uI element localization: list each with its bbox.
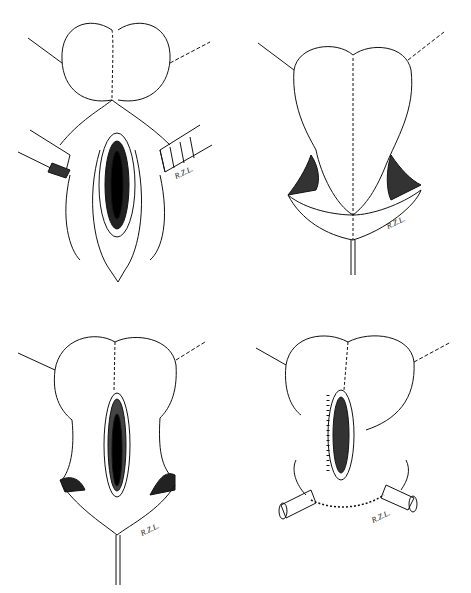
- illustration-sutured-closure: [236, 300, 471, 593]
- illustration-retracted-incision: [0, 0, 235, 296]
- panel-top-right: R.Z.L.: [236, 0, 471, 296]
- panel-bottom-right: R.Z.L.: [236, 300, 471, 593]
- illustration-closed-flap: [236, 0, 471, 296]
- panel-bottom-left: R.Z.L.: [0, 300, 235, 593]
- panel-top-left: R.Z.L.: [0, 0, 235, 296]
- illustration-flap-with-opening: [0, 300, 235, 593]
